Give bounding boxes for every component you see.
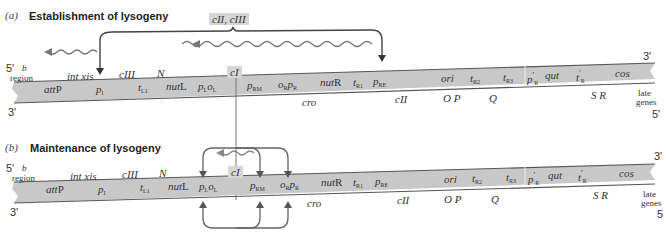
strand-3-right-b: 3' bbox=[654, 150, 662, 162]
wavy-transcript-a bbox=[182, 42, 372, 47]
site-qut-a: qut bbox=[545, 69, 559, 81]
gene-cII-a: cII bbox=[395, 93, 407, 105]
region-label-b: region bbox=[12, 174, 35, 183]
site-oRpR-b: oRpR bbox=[280, 178, 299, 191]
site-pLoL-b: pLoL bbox=[199, 180, 217, 193]
gene-OP-b: O P bbox=[444, 193, 461, 205]
site-tL1-b: tL1 bbox=[140, 181, 150, 194]
site-ori-b: ori bbox=[444, 173, 457, 185]
site-nutL-a: nutL bbox=[166, 80, 187, 92]
gene-cIII-a: cIII bbox=[119, 68, 135, 80]
strand-3-left-b: 3' bbox=[10, 206, 18, 218]
site-attP-b: attP bbox=[46, 183, 64, 195]
gene-cIII-b: cIII bbox=[122, 168, 138, 180]
site-pRM-a: pRM bbox=[247, 79, 262, 92]
gene-cI-a: cI bbox=[227, 66, 242, 78]
site-pR-prime-a: p'R bbox=[527, 70, 538, 86]
site-ori-a: ori bbox=[441, 72, 454, 84]
panel-a-letter: (a) bbox=[5, 9, 18, 21]
genes-label-b: genes bbox=[641, 199, 662, 208]
site-oRpR-a: oRpR bbox=[278, 78, 297, 91]
gene-SR-a: S R bbox=[591, 89, 606, 101]
diagram-graphics bbox=[0, 0, 666, 234]
cII-cIII-bracket-arrow bbox=[100, 27, 382, 56]
site-tL1-a: tL1 bbox=[138, 81, 148, 94]
site-pLoL-a: pLoL bbox=[198, 80, 216, 93]
site-cos-a: cos bbox=[615, 67, 630, 79]
strand-3-right-a: 3' bbox=[643, 50, 651, 62]
site-tR2-b: tR2 bbox=[472, 172, 482, 185]
gene-int-xis-a: int xis bbox=[67, 70, 94, 82]
site-pR-prime-b: p'R bbox=[528, 170, 539, 186]
site-tR3-b: tR3 bbox=[506, 171, 516, 184]
genes-label-a: genes bbox=[636, 98, 657, 107]
gene-int-xis-b: int xis bbox=[70, 170, 97, 182]
site-tR3-a: tR3 bbox=[503, 71, 513, 84]
gene-N-a: N bbox=[157, 67, 164, 79]
site-pI-b: pI bbox=[98, 183, 106, 196]
ci-repression-loop-bottom bbox=[203, 206, 288, 228]
gene-Q-a: Q bbox=[489, 92, 497, 104]
site-nutL-b: nutL bbox=[168, 180, 189, 192]
b-label-a: b bbox=[22, 64, 27, 73]
site-tR2-a: tR2 bbox=[470, 72, 480, 85]
gene-N-b: N bbox=[159, 167, 166, 179]
site-qut-b: qut bbox=[548, 169, 562, 181]
strand-5-right-b: 5 bbox=[657, 208, 663, 220]
region-label-a: region bbox=[10, 74, 33, 83]
gene-cro-a: cro bbox=[302, 96, 316, 108]
strand-3-left-a: 3' bbox=[8, 106, 16, 118]
site-pRE-b: pRE bbox=[375, 175, 388, 188]
gene-SR-b: S R bbox=[593, 189, 608, 201]
site-tR1-a: tR1 bbox=[353, 76, 363, 89]
site-tR1-b: tR1 bbox=[353, 176, 363, 189]
wavy-transcript-b bbox=[222, 151, 254, 155]
gene-OP-a: O P bbox=[443, 92, 460, 104]
gene-cI-b: cI bbox=[228, 166, 243, 178]
site-cos-b: cos bbox=[619, 167, 634, 179]
gene-cII-b: cII bbox=[397, 194, 409, 206]
site-nutR-a: nutR bbox=[320, 76, 341, 88]
panel-b-letter: (b) bbox=[5, 141, 18, 153]
cII-cIII-label: cII, cIII bbox=[209, 13, 249, 25]
strand-5-right-a: 5' bbox=[652, 108, 660, 120]
gene-Q-b: Q bbox=[491, 193, 499, 205]
site-attP-a: attP bbox=[44, 83, 62, 95]
site-pRM-b: pRM bbox=[250, 179, 265, 192]
panel-a-title: Establishment of lysogeny bbox=[29, 10, 168, 22]
panel-b-title: Maintenance of lysogeny bbox=[30, 142, 161, 154]
site-tR-prime-b: t'R bbox=[578, 168, 587, 184]
site-nutR-b: nutR bbox=[321, 176, 342, 188]
wavy-transcript-pI bbox=[49, 50, 97, 54]
gene-cro-b: cro bbox=[307, 197, 321, 209]
site-tR-prime-a: t'R bbox=[576, 68, 585, 84]
b-label-b: b bbox=[22, 164, 27, 173]
site-pI-a: pI bbox=[96, 83, 104, 96]
site-pRE-a: pRE bbox=[373, 75, 386, 88]
